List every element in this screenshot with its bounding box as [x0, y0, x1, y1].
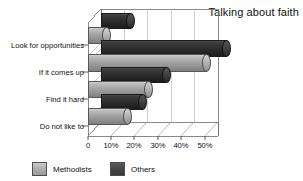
chart-legend: Methodists Others: [0, 160, 303, 178]
bar-methodists-3: [88, 108, 128, 125]
x-axis-tick-1: 10%: [103, 141, 118, 150]
x-axis-tick-4: 40%: [173, 141, 188, 150]
legend-label-others: Others: [131, 165, 155, 174]
x-axis-tick-3: 30%: [150, 141, 165, 150]
x-axis-labels: 0 10% 20% 30% 40% 50%: [0, 141, 303, 153]
x-axis-tick-2: 20%: [126, 141, 141, 150]
bar-end-cap: [123, 108, 132, 125]
legend-swatch-icon-methodists: [32, 162, 47, 176]
plot-area: [0, 0, 303, 181]
x-axis-ticks: [88, 136, 205, 140]
bar-body: [88, 108, 128, 125]
legend-swatch-icon-others: [110, 162, 125, 176]
legend-item-others: Others: [110, 162, 155, 176]
y-axis-label-2: Find it hard: [46, 95, 84, 104]
x-axis-tick-0: 0: [86, 141, 90, 150]
chart-container: Talking about faith: [0, 0, 303, 181]
legend-label-methodists: Methodists: [53, 165, 92, 174]
x-axis-tick-5: 50%: [197, 141, 212, 150]
bar-end-cap: [162, 67, 171, 83]
y-axis-label-3: Do not like to: [40, 122, 84, 131]
legend-item-methodists: Methodists: [32, 162, 92, 176]
y-axis-label-0: Look for opportunities: [11, 41, 84, 50]
y-axis-label-1: If it comes up: [39, 68, 84, 77]
